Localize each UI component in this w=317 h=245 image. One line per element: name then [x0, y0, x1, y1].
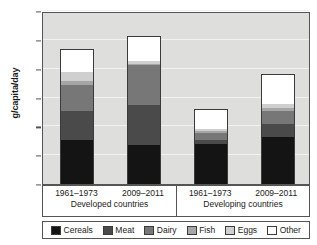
bar-segment-other — [61, 50, 93, 72]
bar-segment-cereals — [128, 145, 160, 184]
gridline-100 — [43, 39, 309, 40]
legend-label-dairy: Dairy — [157, 225, 177, 235]
x-tick-label-period-1: 1961–1973 — [55, 188, 98, 198]
y-tick-mark-0 — [36, 184, 41, 185]
category-periods: 1961–19732009–2011 — [177, 188, 309, 198]
bar-segment-cereals — [61, 140, 93, 184]
plot-area — [42, 12, 310, 185]
legend-item-fish[interactable]: Fish — [187, 225, 216, 235]
x-tick-label-period-2: 2009–2011 — [122, 188, 164, 198]
bar-segment-other — [262, 75, 294, 104]
gridline-120 — [43, 10, 309, 11]
legend-label-fish: Fish — [199, 225, 215, 235]
category-group-label: Developed countries — [71, 199, 149, 209]
legend-swatch-fish — [187, 226, 197, 235]
category-periods: 1961–19732009–2011 — [43, 188, 176, 198]
legend-item-eggs[interactable]: Eggs — [225, 225, 257, 235]
bar-segment-eggs — [61, 72, 93, 81]
category-group-label: Developing countries — [203, 199, 282, 209]
legend-label-cereals: Cereals — [64, 225, 93, 235]
category-group-1: 1961–19732009–2011Developed countries — [43, 186, 176, 216]
y-tick-mark-100 — [36, 40, 41, 41]
legend-label-eggs: Eggs — [238, 225, 257, 235]
y-axis-title: g/capita/day — [10, 48, 20, 138]
legend-swatch-dairy — [144, 226, 154, 235]
category-axis: 1961–19732009–2011Developed countries196… — [42, 185, 310, 217]
x-tick-label-period-4: 2009–2011 — [255, 188, 297, 198]
stacked-bar-chart: g/capita/day 020406080100120 1961–197320… — [0, 0, 317, 245]
y-tick-mark-40 — [36, 127, 41, 128]
bar-segment-cereals — [262, 137, 294, 184]
x-tick-label-period-3: 1961–1973 — [189, 188, 232, 198]
y-tick-mark-60 — [36, 98, 41, 99]
legend-label-other: Other — [280, 225, 301, 235]
legend-swatch-other — [267, 226, 277, 235]
bar-segment-dairy — [128, 65, 160, 105]
legend-item-cereals[interactable]: Cereals — [51, 225, 93, 235]
bar-segment-meat — [128, 105, 160, 145]
chart-legend: CerealsMeatDairyFishEggsOther — [42, 221, 310, 239]
y-tick-mark-120 — [36, 11, 41, 12]
legend-item-dairy[interactable]: Dairy — [144, 225, 176, 235]
bar-segment-meat — [262, 124, 294, 137]
y-tick-mark-20 — [36, 156, 41, 157]
legend-swatch-eggs — [225, 226, 235, 235]
legend-swatch-cereals — [51, 226, 61, 235]
bar-segment-meat — [61, 111, 93, 140]
bar-segment-dairy — [195, 133, 227, 140]
bar-segment-cereals — [195, 144, 227, 184]
bar-segment-dairy — [262, 111, 294, 124]
y-tick-mark-80 — [36, 69, 41, 70]
bar-4[interactable] — [261, 74, 295, 184]
bar-2[interactable] — [127, 36, 161, 184]
bar-segment-other — [128, 37, 160, 61]
bar-1[interactable] — [60, 49, 94, 184]
legend-label-meat: Meat — [115, 225, 134, 235]
bar-segment-other — [195, 110, 227, 128]
bar-3[interactable] — [194, 109, 228, 184]
legend-item-meat[interactable]: Meat — [103, 225, 134, 235]
legend-swatch-meat — [103, 226, 113, 235]
bar-segment-dairy — [61, 85, 93, 111]
category-group-2: 1961–19732009–2011Developing countries — [176, 186, 309, 216]
legend-item-other[interactable]: Other — [267, 225, 301, 235]
